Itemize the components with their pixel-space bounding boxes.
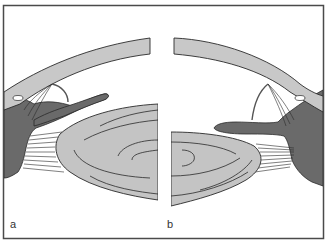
sclera-band-b (174, 38, 323, 112)
schlemm-canal-a (13, 96, 23, 101)
accommodation-illustration: a (0, 0, 328, 244)
panel-a: a (4, 38, 158, 230)
lens-a (56, 104, 158, 200)
sclera-band-a (4, 38, 150, 110)
panel-label-a: a (10, 218, 17, 230)
figure-frame: a (0, 0, 328, 244)
panel-b: b (167, 38, 323, 230)
panel-label-b: b (167, 218, 173, 230)
schlemm-canal-b (295, 96, 305, 101)
anterior-chamber-angle-a (52, 84, 68, 102)
anterior-chamber-angle-b (252, 84, 268, 120)
